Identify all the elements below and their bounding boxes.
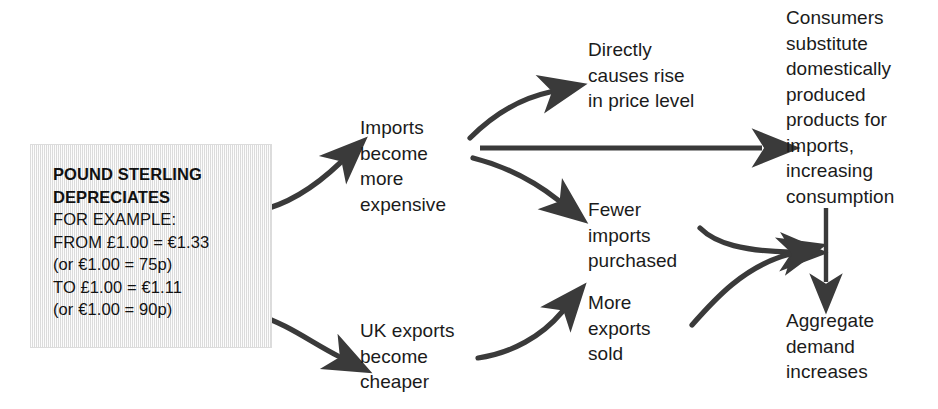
node-line: produced [786,82,894,108]
node-line: cheaper [360,369,454,395]
consumers-substitute-domestic-products: Consumers substitute domestically produc… [786,5,894,209]
source-box-line: FOR EXAMPLE: [53,208,271,231]
node-line: in price level [588,88,694,114]
node-line: Consumers [786,5,894,31]
source-box-line: (or €1.00 = 75p) [53,253,271,276]
source-box-line: DEPRECIATES [53,186,271,209]
source-box-line: POUND STERLING [53,163,271,186]
arrow-fewer-imports-to-aggregate [700,228,790,252]
fewer-imports-purchased: Fewer imports purchased [588,197,677,274]
arrow-imports-to-fewer-imports [473,158,558,200]
node-line: Directly [588,37,694,63]
node-line: domestically [786,56,894,82]
node-line: imports [588,223,677,249]
node-line: purchased [588,248,677,274]
node-line: imports, [786,133,894,159]
arrow-uk-exports-to-more-exports [478,312,562,358]
node-line: expensive [360,192,446,218]
node-line: demand [786,334,874,360]
node-line: become [360,141,446,167]
node-line: Fewer [588,197,677,223]
source-box-line: (or €1.00 = 90p) [53,298,271,321]
node-line: consumption [786,184,894,210]
source-box-line: TO £1.00 = €1.11 [53,276,271,299]
node-line: More [588,290,651,316]
node-line: causes rise [588,63,694,89]
pound-sterling-depreciates-box: POUND STERLING DEPRECIATES FOR EXAMPLE: … [30,144,272,348]
node-line: exports [588,316,651,342]
arrow-more-exports-to-aggregate [692,254,790,325]
node-line: Imports [360,115,446,141]
node-line: sold [588,341,651,367]
imports-become-more-expensive: Imports become more expensive [360,115,446,217]
node-line: more [360,166,446,192]
node-line: UK exports [360,318,454,344]
node-line: products for [786,107,894,133]
node-line: increasing [786,158,894,184]
node-line: become [360,344,454,370]
node-line: Aggregate [786,308,874,334]
directly-causes-rise-in-price-level: Directly causes rise in price level [588,37,694,114]
more-exports-sold: More exports sold [588,290,651,367]
source-box-line: FROM £1.00 = €1.33 [53,231,271,254]
arrow-imports-to-price-level [470,92,550,138]
uk-exports-become-cheaper: UK exports become cheaper [360,318,454,395]
aggregate-demand-increases: Aggregate demand increases [786,308,874,385]
flow-diagram: POUND STERLING DEPRECIATES FOR EXAMPLE: … [0,0,938,409]
node-line: increases [786,359,874,385]
node-line: substitute [786,31,894,57]
